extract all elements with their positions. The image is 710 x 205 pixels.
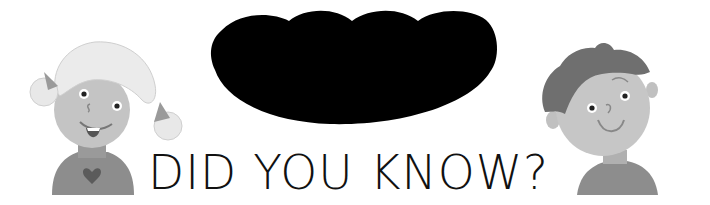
speech-cloud-icon: [211, 11, 497, 124]
headline-title: DID YOU KNOW?: [148, 142, 578, 203]
